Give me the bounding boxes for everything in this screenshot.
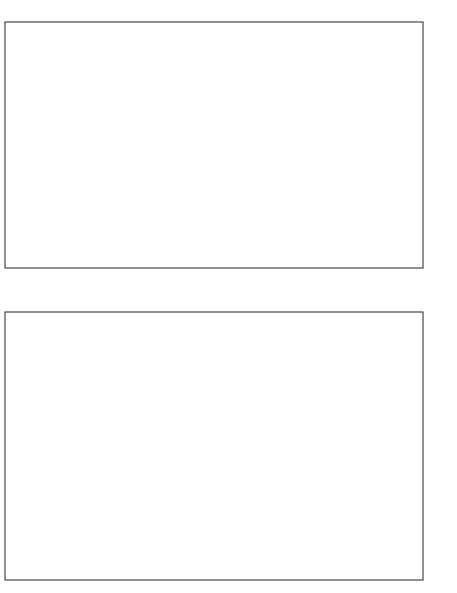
top-chart-frame (5, 22, 423, 268)
bottom-chart-frame (5, 312, 423, 580)
naca-4415-figure (0, 0, 457, 593)
